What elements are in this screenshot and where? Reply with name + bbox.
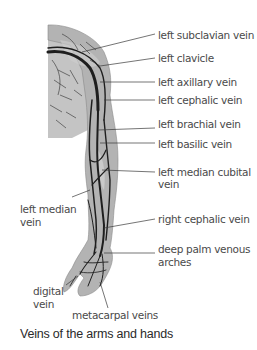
- label-left-median-vein-line1: left median: [20, 203, 76, 215]
- label-right-cephalic-vein: right cephalic vein: [158, 213, 250, 225]
- label-left-basilic-vein: left basilic vein: [158, 138, 232, 150]
- label-deep-palm-venous-arches-line1: deep palm venous: [158, 243, 250, 255]
- label-deep-palm-venous-arches-line2: arches: [158, 256, 191, 268]
- figure-caption: Veins of the arms and hands: [20, 327, 173, 341]
- label-left-median-cubital-vein-line1: left median cubital: [158, 166, 251, 178]
- label-left-subclavian-vein: left subclavian vein: [158, 29, 254, 41]
- label-digital-vein-line2: vein: [33, 298, 54, 310]
- label-left-axillary-vein: left axillary vein: [158, 76, 237, 88]
- label-left-median-vein-line2: vein: [20, 216, 41, 228]
- label-left-clavicle: left clavicle: [158, 52, 214, 64]
- label-left-brachial-vein: left brachial vein: [158, 118, 241, 130]
- label-left-median-cubital-vein-line2: vein: [158, 178, 179, 190]
- label-left-cephalic-vein: left cephalic vein: [158, 94, 242, 106]
- label-digital-vein-line1: digital: [33, 285, 64, 297]
- label-metacarpal-veins: metacarpal veins: [72, 309, 158, 321]
